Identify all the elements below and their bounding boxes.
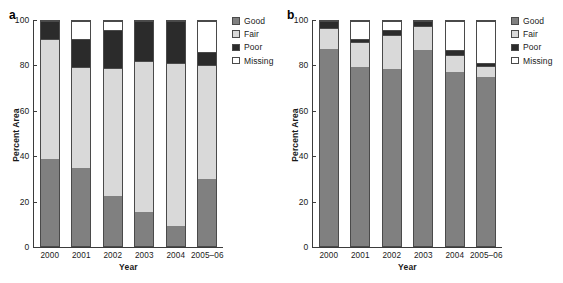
legend-item-poor[interactable]: Poor: [232, 42, 274, 52]
legend-item-good[interactable]: Good: [511, 16, 553, 26]
bar-segment-poor: [104, 30, 122, 68]
bar-segment-fair: [167, 63, 185, 226]
x-tick-label: 2001: [72, 251, 91, 260]
bar-segment-missing: [351, 21, 369, 39]
panel-a-legend: GoodFairPoorMissing: [232, 16, 274, 66]
bar-slot: [439, 20, 471, 247]
y-tick-label: 40: [299, 151, 313, 161]
stacked-bar[interactable]: [40, 20, 60, 247]
legend-item-label: Good: [523, 16, 544, 26]
stacked-bar[interactable]: [71, 20, 91, 247]
stacked-bar[interactable]: [445, 20, 465, 247]
bar-segment-missing: [198, 21, 216, 52]
x-tick-label: 2005–06: [191, 251, 224, 260]
bar-segment-missing: [383, 21, 401, 30]
panel-b-bars: [313, 20, 502, 247]
panel-a-bars: [34, 20, 223, 247]
legend-item-label: Fair: [523, 29, 538, 39]
bar-slot: [408, 20, 440, 247]
bar-segment-poor: [320, 21, 338, 28]
x-tick-label: 2004: [445, 251, 464, 260]
x-tick-label: 2003: [135, 251, 154, 260]
bar-segment-fair: [135, 61, 153, 213]
y-tick-label: 60: [299, 106, 313, 116]
bar-slot: [192, 20, 224, 247]
bar-slot: [66, 20, 98, 247]
legend-item-label: Poor: [523, 42, 541, 52]
bar-segment-good: [198, 179, 216, 246]
legend-item-label: Fair: [244, 29, 259, 39]
y-tick-label: 80: [20, 60, 34, 70]
stacked-bar[interactable]: [476, 20, 496, 247]
legend-item-label: Good: [244, 16, 265, 26]
bar-slot: [313, 20, 345, 247]
y-tick-label: 40: [20, 151, 34, 161]
panel-b-plot-area: 020406080100 200020012002200320042005–06…: [312, 20, 502, 248]
bar-segment-fair: [72, 67, 90, 168]
y-tick-label: 0: [304, 242, 313, 252]
bar-segment-good: [446, 72, 464, 246]
bar-segment-fair: [477, 66, 495, 77]
legend-item-fair[interactable]: Fair: [511, 29, 553, 39]
x-tick-label: 2002: [382, 251, 401, 260]
legend-item-fair[interactable]: Fair: [232, 29, 274, 39]
bar-segment-good: [72, 168, 90, 246]
stacked-bar[interactable]: [319, 20, 339, 247]
bar-slot: [97, 20, 129, 247]
stacked-bar[interactable]: [103, 20, 123, 247]
legend-swatch-poor: [232, 44, 240, 52]
bar-segment-fair: [198, 65, 216, 179]
bar-slot: [34, 20, 66, 247]
panel-a: a Percent Area 020406080100 200020012002…: [0, 0, 281, 283]
legend-swatch-missing: [232, 57, 240, 65]
legend-item-poor[interactable]: Poor: [511, 42, 553, 52]
bar-segment-fair: [446, 55, 464, 72]
panel-b-legend: GoodFairPoorMissing: [511, 16, 553, 66]
bar-segment-poor: [135, 21, 153, 61]
x-tick-label: 2004: [166, 251, 185, 260]
x-tick-label: 2000: [319, 251, 338, 260]
bar-slot: [160, 20, 192, 247]
legend-swatch-missing: [511, 57, 519, 65]
bar-segment-good: [41, 159, 59, 246]
stacked-bar[interactable]: [166, 20, 186, 247]
stacked-bar[interactable]: [134, 20, 154, 247]
legend-item-missing[interactable]: Missing: [511, 56, 553, 66]
bar-segment-good: [135, 212, 153, 246]
stacked-bar[interactable]: [350, 20, 370, 247]
bar-segment-fair: [104, 68, 122, 196]
bar-segment-good: [477, 77, 495, 246]
x-tick-label: 2001: [351, 251, 370, 260]
bar-segment-fair: [414, 26, 432, 50]
bar-segment-good: [351, 67, 369, 246]
legend-swatch-fair: [511, 30, 519, 38]
x-tick-label: 2000: [40, 251, 59, 260]
bar-segment-poor: [41, 21, 59, 39]
y-tick-label: 20: [20, 197, 34, 207]
stacked-bar-figure: a Percent Area 020406080100 200020012002…: [0, 0, 563, 283]
x-tick-label: 2005–06: [470, 251, 503, 260]
legend-item-missing[interactable]: Missing: [232, 56, 274, 66]
legend-item-good[interactable]: Good: [232, 16, 274, 26]
bar-segment-good: [167, 226, 185, 247]
legend-swatch-good: [232, 17, 240, 25]
y-tick-label: 80: [299, 60, 313, 70]
bar-segment-good: [104, 196, 122, 246]
bar-slot: [129, 20, 161, 247]
y-tick-label: 0: [25, 242, 34, 252]
legend-item-label: Poor: [244, 42, 262, 52]
bar-segment-missing: [104, 21, 122, 30]
bar-segment-poor: [198, 52, 216, 65]
y-tick-label: 100: [294, 15, 313, 25]
legend-swatch-fair: [232, 30, 240, 38]
legend-swatch-good: [511, 17, 519, 25]
stacked-bar[interactable]: [197, 20, 217, 247]
legend-item-label: Missing: [523, 56, 553, 66]
bar-segment-poor: [167, 21, 185, 63]
bar-segment-good: [414, 50, 432, 246]
stacked-bar[interactable]: [382, 20, 402, 247]
y-tick-label: 100: [15, 15, 34, 25]
bar-segment-fair: [383, 35, 401, 69]
stacked-bar[interactable]: [413, 20, 433, 247]
y-tick-label: 60: [20, 106, 34, 116]
